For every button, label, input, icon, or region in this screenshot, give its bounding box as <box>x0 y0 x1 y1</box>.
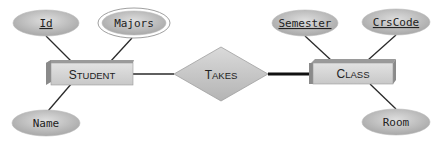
relationship-takes-label: TAKES <box>205 68 238 82</box>
entity-class-left-side <box>309 63 313 84</box>
entity-class[interactable]: CLASS <box>309 59 396 84</box>
attribute-name[interactable]: Name <box>12 110 80 136</box>
attribute-id[interactable]: Id <box>13 10 79 36</box>
attribute-majors[interactable]: Majors <box>98 8 170 38</box>
attribute-majors-label: Majors <box>114 17 154 30</box>
attribute-room[interactable]: Room <box>362 109 430 135</box>
line-semester-class <box>305 36 332 61</box>
attribute-id-label: Id <box>39 17 52 30</box>
entity-student[interactable]: STUDENT <box>46 60 134 85</box>
attribute-crscode[interactable]: CrsCode <box>362 9 430 35</box>
line-name-student <box>48 83 72 111</box>
entity-class-label: CLASS <box>337 67 370 81</box>
line-id-student <box>46 36 72 62</box>
entity-class-right-side <box>393 59 396 84</box>
attribute-crscode-label: CrsCode <box>373 16 419 29</box>
er-diagram: STUDENT TAKES CLASS Id Majors Name Semes… <box>0 0 443 141</box>
attribute-name-label: Name <box>33 117 60 130</box>
entity-student-side <box>46 60 51 85</box>
entity-student-top <box>46 60 134 63</box>
entity-student-label: STUDENT <box>69 68 116 82</box>
attribute-semester[interactable]: Semester <box>272 10 338 36</box>
entity-class-top <box>311 59 396 63</box>
line-crscode-class <box>368 35 396 60</box>
attribute-semester-label: Semester <box>279 17 332 30</box>
attribute-room-label: Room <box>383 116 410 129</box>
line-class-room <box>370 84 396 109</box>
line-majors-student <box>110 38 132 62</box>
relationship-takes[interactable]: TAKES <box>174 47 268 101</box>
